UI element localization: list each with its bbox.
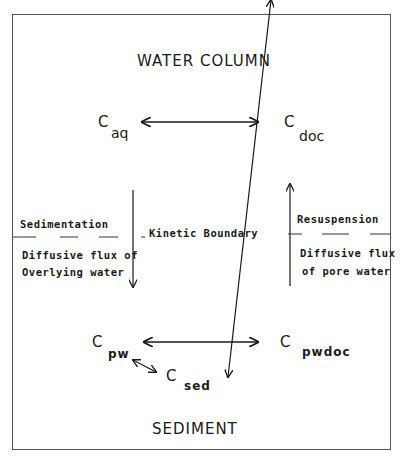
kinetic-boundary-label: Kinetic Boundary bbox=[149, 225, 258, 241]
sedimentation-label: Sedimentation bbox=[20, 216, 109, 232]
resuspension-label: Resuspension bbox=[297, 211, 379, 227]
c-pw-subscript: pw bbox=[108, 347, 130, 361]
diffusive-flux-overlying-line1: Diffusive flux of bbox=[22, 247, 138, 263]
diffusive-flux-pore-line2: of pore water bbox=[302, 263, 391, 279]
c-sed-symbol: C bbox=[166, 367, 176, 385]
c-doc-subscript: doc bbox=[299, 128, 324, 144]
c-pwdoc-symbol: C bbox=[280, 333, 290, 351]
c-doc-symbol: C bbox=[284, 113, 294, 131]
sediment-title: SEDIMENT bbox=[152, 420, 238, 438]
c-pw-symbol: C bbox=[92, 333, 102, 351]
arrow-cpw-csed bbox=[133, 360, 156, 372]
c-aq-subscript: aq bbox=[111, 125, 128, 141]
water-column-title: WATER COLUMN bbox=[137, 52, 271, 70]
diffusive-flux-pore-line1: Diffusive flux bbox=[300, 245, 396, 261]
c-sed-subscript: sed bbox=[184, 379, 211, 393]
c-pwdoc-subscript: pwdoc bbox=[302, 345, 351, 359]
c-aq-symbol: C bbox=[98, 113, 108, 131]
diffusive-flux-overlying-line2: Overlying water bbox=[22, 264, 124, 280]
